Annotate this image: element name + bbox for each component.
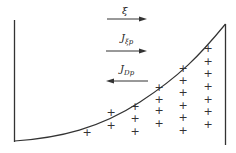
plus-charge-icon: +: [106, 106, 115, 119]
diagram-svg: +++++++++++++++++++++++: [0, 0, 236, 153]
plus-charge-icon: +: [178, 124, 187, 137]
drift-current-label: Jξp: [121, 33, 133, 46]
plus-charge-icon: +: [203, 105, 212, 118]
plus-charge-icon: +: [154, 104, 163, 117]
diagram-canvas: +++++++++++++++++++++++ ξ Jξp JDp: [0, 0, 236, 153]
drift-current-arrow: [106, 49, 147, 54]
plus-charge-icon: +: [130, 112, 139, 125]
plus-charge-icon: +: [106, 119, 115, 132]
plus-charge-icon: +: [130, 125, 139, 138]
positive-charges: +++++++++++++++++++++++: [82, 42, 212, 139]
plus-charge-icon: +: [154, 117, 163, 130]
field-label: ξ: [122, 6, 128, 16]
diffusion-current-arrow: [106, 79, 148, 84]
plus-charge-icon: +: [82, 126, 91, 139]
plus-charge-icon: +: [203, 42, 212, 55]
plus-charge-icon: +: [203, 80, 212, 93]
plus-charge-icon: +: [203, 67, 212, 80]
plus-charge-icon: +: [203, 118, 212, 131]
plus-charge-icon: +: [178, 86, 187, 99]
plus-charge-icon: +: [178, 111, 187, 124]
potential-curve: [15, 24, 226, 141]
field-arrow: [107, 17, 147, 22]
diffusion-current-label: JDp: [120, 64, 134, 77]
